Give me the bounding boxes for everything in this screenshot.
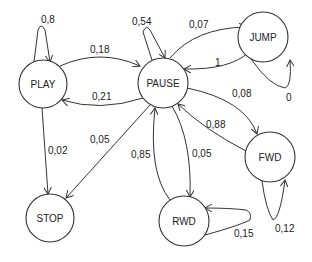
edge-label-pause-jump: 0,07 [189,19,209,30]
edge-pause-jump [170,27,246,58]
node-label-stop: STOP [36,213,63,224]
edge-label-play-stop: 0,02 [48,145,68,156]
edge-label-play-play: 0,8 [41,14,55,25]
edge-label-pause-play: 0,21 [92,91,112,102]
edge-label-pause-pause: 0,54 [132,16,152,27]
node-label-rwd: RWD [172,216,196,227]
edge-jump-jump [251,59,290,88]
node-rwd: RWD [159,196,209,246]
edge-label-pause-stop: 0,05 [90,134,110,145]
node-pause: PAUSE [138,58,188,108]
edge-label-jump-pause: 1 [215,57,221,68]
edge-pause-rwd [172,106,190,197]
edge-label-pause-rwd: 0,05 [192,148,212,159]
edge-play-play [34,26,50,62]
node-label-play: PLAY [31,79,56,90]
edge-label-pause-fwd: 0,08 [232,88,252,99]
edge-label-fwd-fwd: 0,12 [275,223,295,234]
node-stop: STOP [26,194,74,242]
edge-fwd-fwd [262,180,285,220]
node-jump: JUMP [238,12,288,62]
edge-label-play-pause: 0,18 [90,44,110,55]
edge-label-jump-jump: 0 [286,92,292,103]
edge-label-rwd-pause: 0,85 [131,149,151,160]
edge-play-pause [60,57,140,66]
edge-label-fwd-pause: 0,88 [206,119,226,130]
edge-rwd-pause [153,108,170,200]
node-label-fwd: FWD [259,152,282,163]
node-play: PLAY [19,60,67,108]
edge-pause-pause [143,27,165,60]
edge-label-rwd-rwd: 0,15 [234,228,254,239]
node-label-pause: PAUSE [146,78,179,89]
node-label-jump: JUMP [249,32,277,43]
state-diagram: 0,8 0,18 0,21 0,02 0,54 0,07 1 0 0,08 0,… [0,0,312,262]
node-fwd: FWD [245,132,295,182]
